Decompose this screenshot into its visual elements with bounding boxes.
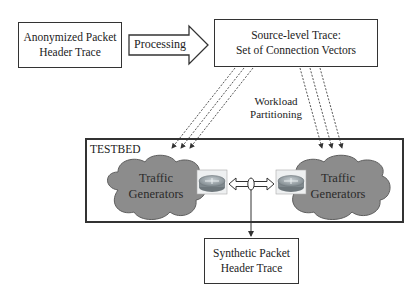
workload-partitioning-label: Workload Partitioning	[240, 95, 312, 121]
right-generators-line2: Generators	[298, 186, 378, 202]
input-trace-box: Anonymized Packet Header Trace	[18, 22, 122, 68]
partitioning-line2: Partitioning	[240, 108, 312, 121]
link-double-arrow	[229, 178, 274, 190]
input-trace-line1: Anonymized Packet	[24, 30, 117, 45]
right-generators-label: Traffic Generators	[298, 170, 378, 202]
left-generators-label: Traffic Generators	[118, 170, 194, 202]
left-generators-line2: Generators	[118, 186, 194, 202]
source-trace-line1: Source-level Trace:	[251, 28, 341, 43]
processing-label: Processing	[130, 38, 190, 51]
input-trace-line2: Header Trace	[39, 45, 101, 60]
output-trace-line2: Header Trace	[221, 261, 283, 276]
output-trace-box: Synthetic Packet Header Trace	[204, 238, 299, 284]
source-trace-box: Source-level Trace: Set of Connection Ve…	[214, 19, 378, 67]
left-generators-line1: Traffic	[118, 170, 194, 186]
partitioning-line1: Workload	[240, 95, 312, 108]
router-icon-left	[197, 170, 227, 194]
output-trace-line1: Synthetic Packet	[213, 246, 290, 261]
right-generators-line1: Traffic	[298, 170, 378, 186]
testbed-label: TESTBED	[90, 143, 140, 156]
source-trace-line2: Set of Connection Vectors	[236, 43, 356, 58]
